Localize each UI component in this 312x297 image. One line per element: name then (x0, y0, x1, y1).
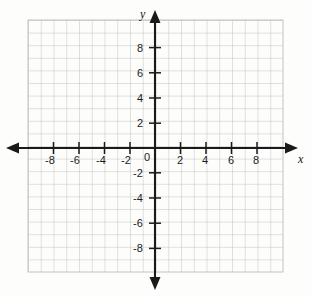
y-axis-arrow-up (150, 10, 161, 23)
x-axis-arrow-left (6, 143, 19, 154)
y-tick-label-4: 4 (137, 93, 143, 104)
y-tick-label--4: -4 (133, 193, 143, 204)
x-tick-label-6: 6 (228, 155, 234, 166)
y-tick-label--6: -6 (133, 218, 143, 229)
y-tick-label-6: 6 (137, 68, 143, 79)
coordinate-plane-figure: -8 -6 -4 -2 2 4 6 8 8 6 4 2 -2 -4 -6 -8 … (0, 0, 312, 297)
x-tick-label--2: -2 (121, 155, 131, 166)
y-tick-label-8: 8 (137, 43, 143, 54)
y-tick-label--2: -2 (133, 168, 143, 179)
y-tick-label--8: -8 (133, 243, 143, 254)
x-tick-label-4: 4 (202, 155, 208, 166)
x-tick-label--8: -8 (45, 155, 55, 166)
x-axis-arrow-right (285, 143, 298, 154)
y-axis-label: y (140, 8, 145, 20)
x-axis-label: x (298, 153, 303, 165)
y-tick-label-2: 2 (137, 118, 143, 129)
x-tick-label-8: 8 (253, 155, 259, 166)
origin-label: 0 (144, 152, 150, 163)
x-tick-label--6: -6 (70, 155, 80, 166)
y-axis-arrow-down (150, 277, 161, 290)
x-tick-label-2: 2 (177, 155, 183, 166)
x-tick-label--4: -4 (96, 155, 106, 166)
graph-canvas (0, 0, 312, 297)
